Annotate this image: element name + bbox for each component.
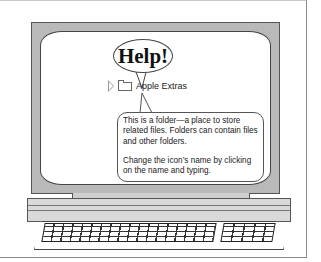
finder-list-item[interactable]: Apple Extras [108,79,187,93]
keyboard [34,221,284,250]
info-text-line: on the name and typing. [123,166,258,176]
disclosure-triangle-icon[interactable] [108,80,114,92]
info-balloon: This is a folder—a place to store relate… [117,112,264,182]
keyboard-main-keys [41,223,216,242]
info-text-line: This is a folder—a place to store [123,116,258,126]
help-title: Help! [118,44,168,69]
folder-icon[interactable] [118,82,132,91]
info-text-line: related files. Folders can contain files [123,126,258,136]
info-text-line: Change the icon’s name by clicking [123,156,258,166]
computer-base [27,198,291,222]
folder-name[interactable]: Apple Extras [136,81,187,91]
info-text-line: and other folders. [123,137,258,147]
help-balloon: Help! [113,39,173,73]
keyboard-numpad [220,223,275,242]
